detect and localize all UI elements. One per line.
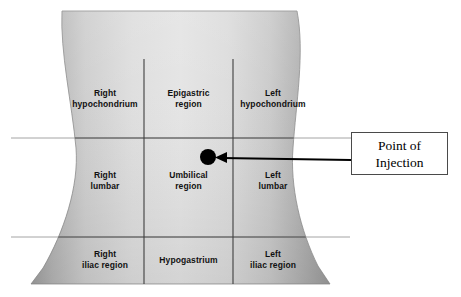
point-of-injection-label: Point of Injection (376, 137, 424, 171)
abdominal-regions-diagram: Right hypochondrium Epigastric region Le… (0, 0, 461, 297)
torso-body (31, 11, 330, 284)
point-of-injection-callout: Point of Injection (351, 132, 448, 175)
injection-point-dot (200, 149, 216, 165)
